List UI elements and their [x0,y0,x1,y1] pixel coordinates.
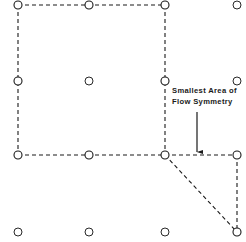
well-node [14,77,22,85]
well-node [14,151,22,159]
well-node [85,151,93,159]
boundary-layer [18,5,237,232]
flow-symmetry-diagram: Smallest Area of Flow Symmetry [0,0,246,242]
well-node [85,1,93,9]
well-node [233,151,241,159]
well-node [85,77,93,85]
seg-diagonal [165,155,237,232]
well-node [14,1,22,9]
well-node [233,228,241,236]
well-node [161,1,169,9]
well-node [14,228,22,236]
well-node [161,228,169,236]
well-node-layer [14,1,241,236]
well-node [233,1,241,9]
well-node [85,228,93,236]
well-node [161,77,169,85]
well-node [233,77,241,85]
well-node [161,151,169,159]
diagram-canvas [0,0,246,242]
annotation-label-line-2: Flow Symmetry [172,97,233,107]
annotation-label-line-1: Smallest Area of [172,86,237,96]
